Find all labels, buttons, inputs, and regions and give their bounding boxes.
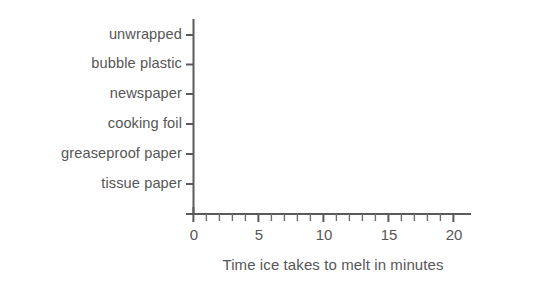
y-axis-label-tissue-paper: tissue paper <box>101 175 182 191</box>
y-axis-label-newspaper: newspaper <box>110 85 182 101</box>
x-tick-label-5: 5 <box>255 226 263 243</box>
chart-container: unwrapped bubble plastic newspaper cooki… <box>0 0 534 287</box>
y-axis-label-bubble-plastic: bubble plastic <box>91 55 182 71</box>
x-tick-label-15: 15 <box>381 226 398 243</box>
x-tick-label-10: 10 <box>316 226 333 243</box>
x-axis-title: Time ice takes to melt in minutes <box>222 256 443 273</box>
x-tick-label-20: 20 <box>446 226 463 243</box>
x-tick-label-0: 0 <box>190 226 198 243</box>
bar-chart-svg: unwrapped bubble plastic newspaper cooki… <box>0 0 534 287</box>
y-axis-label-greaseproof-paper: greaseproof paper <box>61 145 182 161</box>
y-axis-label-unwrapped: unwrapped <box>109 26 182 42</box>
chart-background <box>0 0 534 287</box>
y-axis-label-cooking-foil: cooking foil <box>108 115 182 131</box>
